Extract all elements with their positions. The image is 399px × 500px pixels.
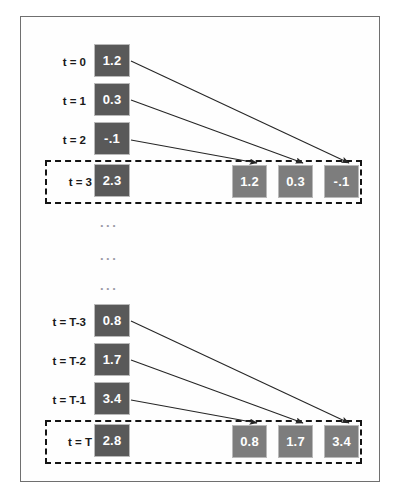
source-value-box-tT3: 0.8 <box>94 304 130 337</box>
buffer-box-top-0: 1.2 <box>232 165 267 198</box>
timestep-label-t0: t = 0 <box>40 56 86 68</box>
buffer-box-bottom-0: 0.8 <box>232 425 267 458</box>
source-value-box-tT1: 3.4 <box>94 382 130 415</box>
current-value-box-tT: 2.8 <box>94 424 130 457</box>
source-value-box-tT2: 1.7 <box>94 343 130 376</box>
ellipsis-2: ... <box>100 248 118 263</box>
timestep-label-tT3: t = T-3 <box>32 316 86 328</box>
outer-frame <box>20 16 380 482</box>
timestep-label-tT: t = T <box>48 436 92 448</box>
current-timestep-group-bottom <box>45 420 362 464</box>
source-value-box-t2: -.1 <box>94 122 130 155</box>
source-value-box-t0: 1.2 <box>94 44 130 77</box>
timestep-label-t3: t = 3 <box>52 176 92 188</box>
timestep-label-t1: t = 1 <box>40 95 86 107</box>
timestep-label-tT2: t = T-2 <box>32 355 86 367</box>
timestep-label-tT1: t = T-1 <box>32 394 86 406</box>
current-value-box-t3: 2.3 <box>94 164 130 197</box>
buffer-box-top-1: 0.3 <box>278 165 313 198</box>
current-timestep-group-top <box>45 160 362 204</box>
buffer-box-top-2: -.1 <box>324 165 359 198</box>
ellipsis-3: ... <box>100 278 118 293</box>
buffer-box-bottom-1: 1.7 <box>278 425 313 458</box>
timestep-label-t2: t = 2 <box>40 134 86 146</box>
source-value-box-t1: 0.3 <box>94 83 130 116</box>
diagram-canvas: t = 0 1.2 t = 1 0.3 t = 2 -.1 t = 3 2.3 … <box>0 0 399 500</box>
ellipsis-1: ... <box>100 215 118 230</box>
buffer-box-bottom-2: 3.4 <box>324 425 359 458</box>
